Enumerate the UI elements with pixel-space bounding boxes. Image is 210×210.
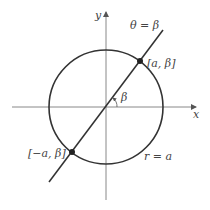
circle-label: r = a [144, 150, 172, 163]
point-neg-a-beta [69, 149, 75, 155]
angle-arc-icon [113, 98, 117, 107]
diagram-svg: y x θ = β [a, β] [−a, β] r = a β [0, 0, 210, 210]
point-positive-label: [a, β] [147, 57, 176, 70]
line-label: θ = β [130, 19, 159, 32]
x-axis-label: x [193, 108, 200, 121]
angle-label: β [120, 91, 127, 104]
polar-diagram: y x θ = β [a, β] [−a, β] r = a β [0, 0, 210, 210]
point-a-beta [137, 58, 143, 64]
point-negative-label: [−a, β] [28, 147, 66, 160]
y-axis-label: y [94, 9, 102, 22]
